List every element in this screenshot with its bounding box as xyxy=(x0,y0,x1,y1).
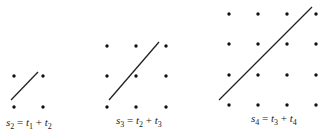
diagonal-line xyxy=(109,42,159,100)
equation-label: s4 = t3 + t4 xyxy=(251,112,297,127)
grid-4x4-figure: s4 = t3 + t4 xyxy=(219,7,318,127)
grid-3x3-figure: s3 = t2 + t3 xyxy=(105,42,167,129)
grid-dot xyxy=(12,74,15,77)
equation-label: s2 = t1 + t2 xyxy=(6,116,52,131)
grid-dot xyxy=(134,74,137,77)
equation-label: s3 = t2 + t3 xyxy=(116,114,162,129)
grid-dot xyxy=(256,73,259,76)
grid-dot xyxy=(105,105,108,108)
grid-dot xyxy=(256,103,259,106)
grid-dot xyxy=(134,44,137,47)
grid-dot xyxy=(256,12,259,15)
grid-dot xyxy=(41,74,44,77)
grid-dot xyxy=(314,73,317,76)
grid-dot xyxy=(41,105,44,108)
grid-dot xyxy=(314,103,317,106)
grid-dot xyxy=(227,42,230,45)
grid-dot xyxy=(12,105,15,108)
grid-dot xyxy=(164,105,167,108)
grid-dot xyxy=(134,105,137,108)
grid-dot xyxy=(227,73,230,76)
grid-dot xyxy=(285,12,288,15)
grid-dot xyxy=(227,103,230,106)
grid-dot xyxy=(164,74,167,77)
grid-dot xyxy=(256,42,259,45)
grid-dot xyxy=(285,73,288,76)
grid-dot xyxy=(285,42,288,45)
grid-dot xyxy=(314,42,317,45)
grid-dot xyxy=(164,44,167,47)
diagram-canvas: s2 = t1 + t2s3 = t2 + t3s4 = t3 + t4 xyxy=(0,0,332,137)
grid-dot xyxy=(105,74,108,77)
grid-dot xyxy=(285,103,288,106)
grid-2x2-figure: s2 = t1 + t2 xyxy=(6,72,52,131)
grid-dot xyxy=(227,12,230,15)
grid-dot xyxy=(314,12,317,15)
diagonal-line xyxy=(219,7,312,100)
grid-dot xyxy=(105,44,108,47)
